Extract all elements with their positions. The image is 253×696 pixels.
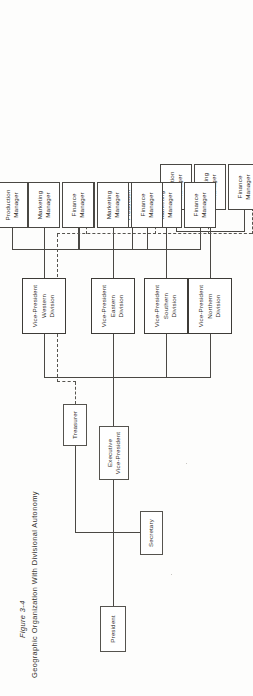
connector-southern-production bbox=[132, 228, 133, 250]
node-vp-eastern[interactable]: Vice-President Eastern Division bbox=[91, 278, 135, 334]
node-western-marketing-manager[interactable]: Marketing Manager bbox=[28, 182, 60, 228]
connector-exec-vp-to-division-spine bbox=[113, 378, 114, 426]
connector-vp-eastern-to-bus bbox=[113, 250, 114, 278]
node-eastern-marketing-manager[interactable]: Marketing Manager bbox=[97, 182, 129, 228]
connector-spine-to-vp-eastern bbox=[113, 334, 114, 378]
connector-spine-to-vp-western bbox=[44, 334, 45, 378]
connector-southern-marketing bbox=[166, 228, 167, 250]
org-chart-page: Figure 3-4 Geographic Organization With … bbox=[0, 0, 253, 696]
connector-vp-southern-to-bus bbox=[166, 250, 167, 278]
node-vp-western[interactable]: Vice-President Western Division bbox=[22, 278, 66, 334]
connector-western-production bbox=[12, 228, 13, 250]
connector-northern-finance bbox=[244, 210, 245, 232]
connector-eastern-production bbox=[79, 228, 80, 250]
connector-western-marketing bbox=[44, 228, 45, 250]
node-vp-northern[interactable]: Vice-President Northern Division bbox=[188, 278, 232, 334]
dashed-stub-northern-finance bbox=[252, 208, 253, 234]
connector-president-staff-spine bbox=[75, 532, 140, 533]
connector-spine-to-vp-southern bbox=[166, 334, 167, 378]
node-northern-finance-manager[interactable]: Finance Manager bbox=[228, 164, 253, 210]
dashed-treasurer-riser bbox=[57, 381, 76, 382]
node-western-finance-manager[interactable]: Finance Manager bbox=[62, 182, 94, 228]
node-vp-southern[interactable]: Vice-President Southern Division bbox=[144, 278, 188, 334]
figure-title: Geographic Organization With Divisional … bbox=[30, 491, 39, 678]
connector-western-finance bbox=[78, 228, 79, 250]
connector-president-to-exec-vp bbox=[113, 480, 114, 606]
bus-western bbox=[12, 249, 78, 250]
connector-spine-to-vp-northern bbox=[210, 334, 211, 378]
node-executive-vice-president[interactable]: Executive Vice-President bbox=[99, 426, 129, 480]
node-treasurer[interactable]: Treasurer bbox=[63, 404, 87, 446]
dashed-treasurer-exit bbox=[75, 382, 76, 404]
connector-southern-finance bbox=[200, 228, 201, 250]
node-president[interactable]: President bbox=[100, 606, 126, 652]
node-eastern-finance-manager[interactable]: Finance Manager bbox=[131, 182, 163, 228]
connector-vp-western-to-bus bbox=[44, 250, 45, 278]
scan-speck bbox=[171, 574, 172, 575]
figure-number: Figure 3-4 bbox=[18, 600, 27, 638]
division-spine bbox=[44, 377, 210, 378]
connector-vp-northern-to-bus bbox=[210, 232, 211, 278]
node-southern-finance-manager[interactable]: Finance Manager bbox=[184, 182, 216, 228]
node-secretary[interactable]: Secretary bbox=[140, 511, 163, 555]
scan-speck bbox=[186, 463, 187, 464]
node-western-production-manager[interactable]: Production Manager bbox=[0, 182, 28, 228]
connector-eastern-marketing bbox=[113, 228, 114, 250]
connector-eastern-finance bbox=[147, 228, 148, 250]
